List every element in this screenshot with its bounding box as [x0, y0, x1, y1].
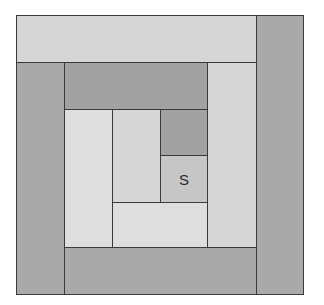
outer-frame	[16, 15, 304, 295]
